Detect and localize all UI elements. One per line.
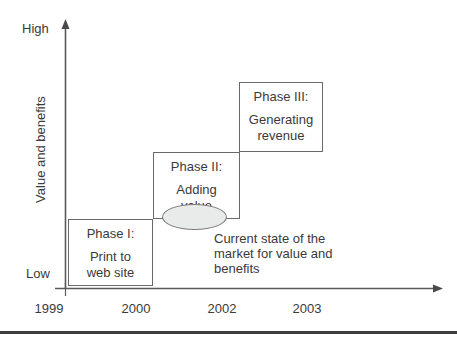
phase-1-title: Phase I: (69, 226, 152, 242)
y-axis-title: Value and benefits (33, 90, 48, 210)
y-axis-low-label: Low (26, 266, 50, 281)
phase-1-box[interactable]: Phase I: Print to web site (68, 219, 153, 286)
diagram-canvas: High Low Value and benefits 1999 2000 20… (0, 0, 457, 345)
phase-3-body: Generating revenue (240, 112, 322, 144)
phase-3-title: Phase III: (240, 89, 322, 105)
x-tick-2000: 2000 (106, 301, 166, 316)
current-state-caption: Current state of the market for value an… (214, 231, 333, 276)
x-tick-1999: 1999 (19, 301, 79, 316)
current-state-marker-ellipse (162, 204, 227, 230)
phase-3-box[interactable]: Phase III: Generating revenue (239, 82, 323, 152)
y-axis-high-label: High (22, 21, 49, 36)
bottom-rule (0, 331, 457, 334)
phase-1-body: Print to web site (69, 249, 152, 281)
x-tick-2002: 2002 (192, 301, 252, 316)
x-tick-2003: 2003 (277, 301, 337, 316)
phase-2-title: Phase II: (154, 159, 239, 175)
